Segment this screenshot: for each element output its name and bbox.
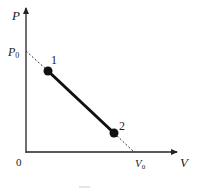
- process-line: [48, 71, 114, 133]
- y-axis-label: P: [11, 8, 20, 23]
- point-1: [44, 67, 53, 76]
- point-2-label: 2: [119, 119, 125, 133]
- v0-label: V0: [135, 157, 146, 171]
- x-axis-label: V: [180, 155, 190, 170]
- point-1-label: 1: [51, 53, 57, 67]
- origin-label: 0: [16, 156, 22, 168]
- pv-diagram: P V 0 P0 V0 1 2: [0, 0, 199, 192]
- point-2: [110, 129, 119, 138]
- p0-label: P0: [7, 45, 19, 60]
